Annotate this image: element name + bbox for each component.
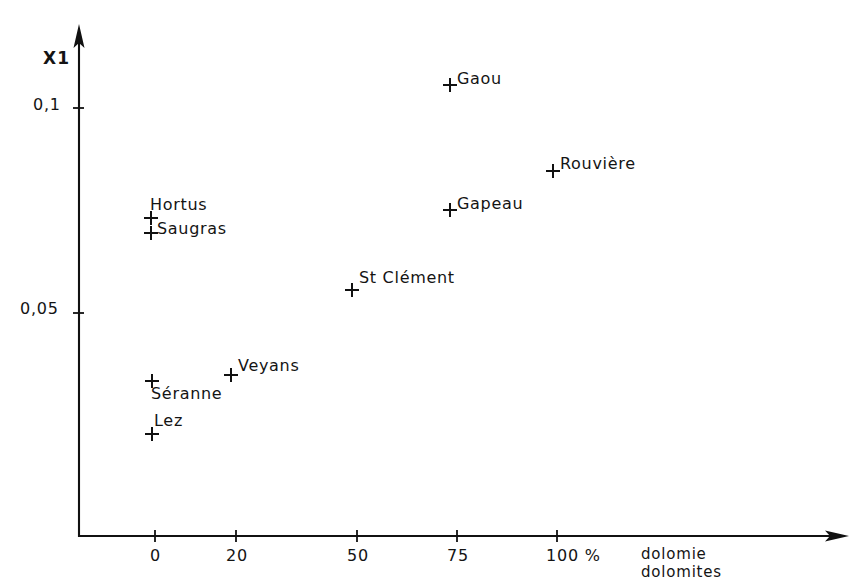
x-tick-label-100: 100 % bbox=[546, 547, 601, 566]
x-tick-label-75: 75 bbox=[447, 547, 469, 566]
data-point-label-rouviere: Rouvière bbox=[560, 155, 636, 174]
x-tick-label-20: 20 bbox=[226, 547, 248, 566]
y-axis-name: X1 bbox=[43, 48, 70, 68]
y-tick-label-0-05: 0,05 bbox=[20, 300, 59, 319]
data-point-label-lez: Lez bbox=[154, 412, 183, 431]
data-point-label-saugras: Saugras bbox=[157, 220, 227, 239]
data-point-marker-gapeau[interactable] bbox=[443, 203, 457, 217]
x-tick-label-0: 0 bbox=[150, 547, 161, 566]
data-point-marker-rouviere[interactable] bbox=[546, 164, 560, 178]
data-point-label-seranne: Séranne bbox=[151, 385, 222, 404]
data-point-label-veyans: Veyans bbox=[238, 357, 300, 376]
data-point-label-gaou: Gaou bbox=[457, 70, 502, 89]
data-point-label-hortus: Hortus bbox=[150, 196, 207, 215]
scatter-plot-figure: X1 0,1 0,05 0 20 50 75 100 % dolomie dol… bbox=[0, 0, 860, 583]
data-point-marker-gaou[interactable] bbox=[443, 78, 457, 92]
data-point-label-st-clement: St Clément bbox=[359, 269, 455, 288]
x-tick-label-50: 50 bbox=[347, 547, 369, 566]
y-tick-label-0-1: 0,1 bbox=[33, 96, 61, 115]
plot-canvas bbox=[0, 0, 860, 583]
data-point-label-gapeau: Gapeau bbox=[457, 195, 523, 214]
x-axis-caption-line2: dolomites bbox=[641, 562, 722, 582]
data-point-marker-st-clement[interactable] bbox=[345, 283, 359, 297]
data-point-marker-saugras[interactable] bbox=[144, 226, 158, 240]
data-point-marker-veyans[interactable] bbox=[224, 368, 238, 382]
